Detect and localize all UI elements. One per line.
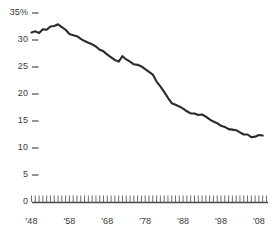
y-axis-tick-label: 35% xyxy=(2,7,28,17)
x-axis-tick-label: '08 xyxy=(244,216,274,226)
y-axis-tick-label: 5 xyxy=(2,169,28,179)
x-axis-tick-label: '88 xyxy=(168,216,198,226)
x-axis-tick-label: '68 xyxy=(92,216,122,226)
y-axis-tick-label: 25 xyxy=(2,61,28,71)
y-axis-tick-label: 10 xyxy=(2,142,28,152)
y-axis-tick-label: 30 xyxy=(2,34,28,44)
x-axis-minor-ticks xyxy=(32,196,267,203)
chart-container: 05101520253035% '48'58'68'78'88'98'08 xyxy=(0,0,274,245)
x-axis-tick-label: '78 xyxy=(130,216,160,226)
y-axis-tick-label: 20 xyxy=(2,88,28,98)
y-axis-tick-label: 0 xyxy=(2,196,28,206)
x-axis-tick-label: '98 xyxy=(206,216,236,226)
line-chart-plot xyxy=(0,0,274,245)
y-axis-tick-label: 15 xyxy=(2,115,28,125)
x-axis-tick-label: '48 xyxy=(17,216,47,226)
y-axis-tick-marks xyxy=(32,13,39,202)
data-series-line xyxy=(32,24,263,137)
x-axis-tick-label: '58 xyxy=(54,216,84,226)
